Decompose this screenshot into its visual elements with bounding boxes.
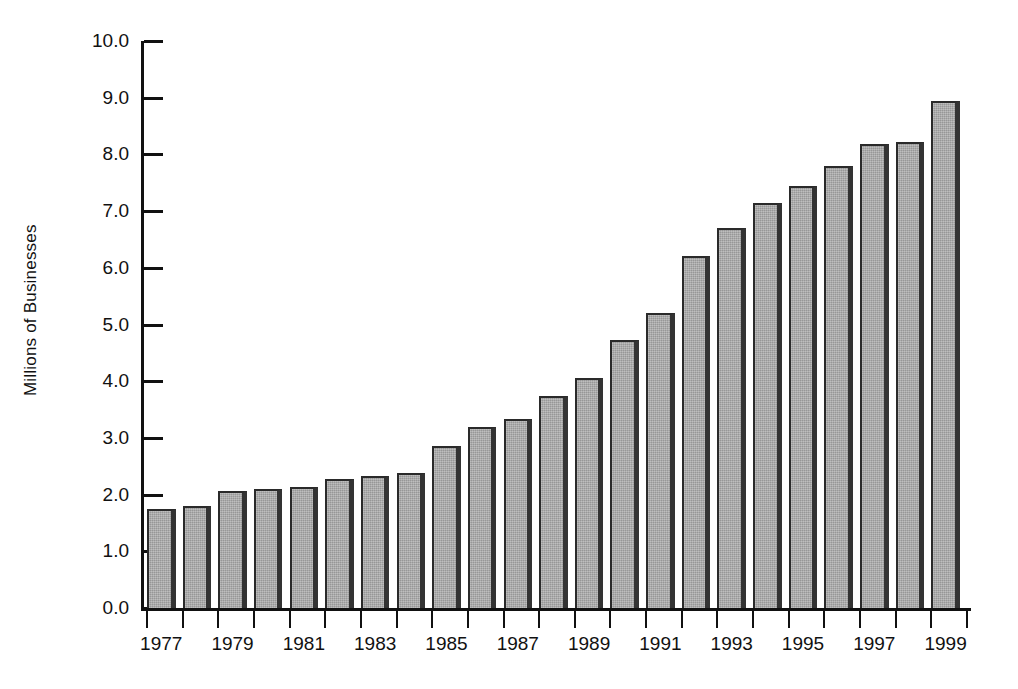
x-tick	[823, 611, 825, 628]
y-tick-label: 0.0	[65, 598, 129, 617]
x-tick	[217, 611, 219, 628]
x-tick	[966, 611, 968, 628]
plot-area: 0.01.02.03.04.05.06.07.08.09.010.0 19771…	[141, 41, 971, 608]
x-tick	[253, 611, 255, 628]
x-tick	[146, 611, 148, 628]
bar	[361, 476, 390, 608]
y-tick	[144, 40, 163, 43]
bar	[682, 256, 711, 608]
x-tick	[930, 611, 932, 628]
x-tick	[538, 611, 540, 628]
y-tick	[144, 153, 163, 156]
y-tick-label: 4.0	[65, 371, 129, 390]
bar	[610, 340, 639, 608]
x-tick	[360, 611, 362, 628]
y-tick	[144, 494, 163, 497]
x-tick-label: 1981	[264, 633, 344, 655]
y-tick-label: 2.0	[65, 485, 129, 504]
bar	[789, 186, 818, 608]
bar-chart: Millions of Businesses 0.01.02.03.04.05.…	[0, 0, 1018, 689]
x-tick-label: 1987	[478, 633, 558, 655]
y-tick-label: 3.0	[65, 428, 129, 447]
x-tick	[574, 611, 576, 628]
x-tick	[859, 611, 861, 628]
y-tick	[144, 380, 163, 383]
y-axis-title: Millions of Businesses	[14, 0, 48, 620]
y-tick	[144, 210, 163, 213]
bar	[896, 142, 925, 608]
bar	[860, 144, 889, 608]
x-tick	[609, 611, 611, 628]
y-tick	[144, 324, 163, 327]
bar	[290, 487, 319, 608]
y-tick-label: 1.0	[65, 541, 129, 560]
y-tick-label: 8.0	[65, 144, 129, 163]
x-tick-label: 1989	[549, 633, 629, 655]
y-tick-label: 5.0	[65, 315, 129, 334]
bar	[432, 446, 461, 608]
x-tick-label: 1991	[620, 633, 700, 655]
bar	[397, 473, 426, 608]
x-tick-label: 1993	[692, 633, 772, 655]
bar	[325, 479, 354, 608]
bar	[575, 378, 604, 608]
x-tick	[716, 611, 718, 628]
x-tick	[182, 611, 184, 628]
x-tick	[788, 611, 790, 628]
bar	[147, 509, 176, 608]
x-tick-label: 1985	[406, 633, 486, 655]
x-tick-label: 1979	[193, 633, 273, 655]
bar	[717, 228, 746, 608]
bar	[504, 419, 533, 608]
y-tick-label: 6.0	[65, 258, 129, 277]
x-tick	[645, 611, 647, 628]
bar	[931, 101, 960, 608]
bar	[753, 203, 782, 608]
x-tick-label: 1983	[335, 633, 415, 655]
x-tick	[431, 611, 433, 628]
y-tick-label: 10.0	[65, 31, 129, 50]
x-tick	[289, 611, 291, 628]
x-tick	[396, 611, 398, 628]
x-tick-label: 1997	[834, 633, 914, 655]
x-tick	[752, 611, 754, 628]
bar	[254, 489, 283, 608]
x-tick-label: 1995	[763, 633, 843, 655]
x-tick	[467, 611, 469, 628]
bar	[183, 506, 212, 608]
bar	[218, 491, 247, 608]
y-tick	[144, 267, 163, 270]
bar	[824, 166, 853, 608]
x-tick-label: 1999	[906, 633, 986, 655]
bar	[646, 313, 675, 608]
y-tick-label: 7.0	[65, 201, 129, 220]
x-tick-label: 1977	[121, 633, 201, 655]
bar	[468, 427, 497, 608]
y-tick-label: 9.0	[65, 88, 129, 107]
x-axis-line	[141, 608, 971, 611]
y-tick	[144, 97, 163, 100]
x-tick	[681, 611, 683, 628]
x-tick	[324, 611, 326, 628]
x-tick	[895, 611, 897, 628]
y-tick	[144, 437, 163, 440]
bar	[539, 396, 568, 608]
x-tick	[503, 611, 505, 628]
